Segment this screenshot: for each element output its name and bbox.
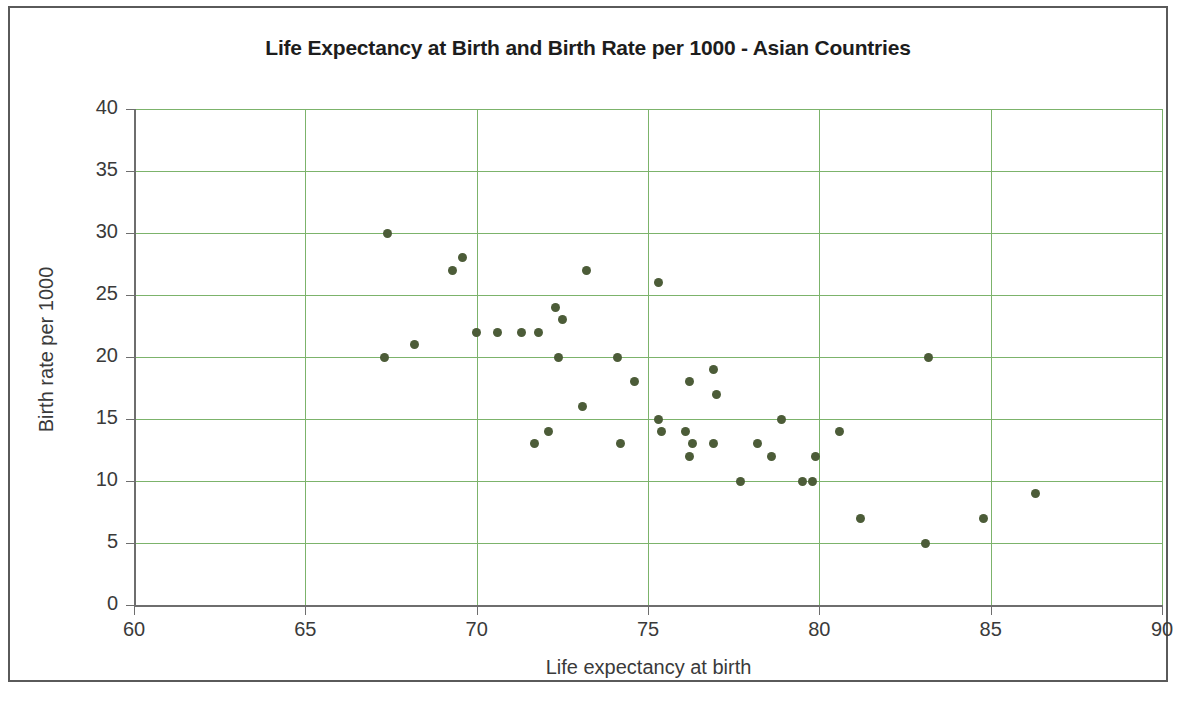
y-tick-label: 0	[56, 592, 118, 615]
x-tick	[1162, 606, 1163, 615]
scatter-point	[856, 514, 865, 523]
scatter-point	[924, 353, 933, 362]
scatter-point	[709, 365, 718, 374]
gridline-vertical	[819, 109, 820, 605]
x-tick-label: 60	[99, 618, 169, 641]
scatter-point	[681, 427, 690, 436]
scatter-point	[410, 340, 419, 349]
scatter-point	[688, 439, 697, 448]
scatter-point	[654, 278, 663, 287]
gridline-vertical	[648, 109, 649, 605]
scatter-point	[685, 452, 694, 461]
scatter-point	[630, 377, 639, 386]
y-axis-label: Birth rate per 1000	[35, 200, 58, 500]
y-tick-label: 5	[56, 530, 118, 553]
gridline-vertical	[477, 109, 478, 605]
scatter-point	[578, 402, 587, 411]
x-tick	[991, 606, 992, 615]
chart-figure: Life Expectancy at Birth and Birth Rate …	[8, 6, 1168, 682]
scatter-point	[767, 452, 776, 461]
scatter-point	[534, 328, 543, 337]
scatter-point	[554, 353, 563, 362]
scatter-point	[921, 539, 930, 548]
chart-title: Life Expectancy at Birth and Birth Rate …	[10, 36, 1166, 60]
x-tick	[305, 606, 306, 615]
scatter-point	[808, 477, 817, 486]
scatter-point	[736, 477, 745, 486]
y-tick-label: 40	[56, 96, 118, 119]
x-tick-label: 75	[613, 618, 683, 641]
x-tick	[819, 606, 820, 615]
gridline-vertical	[305, 109, 306, 605]
x-tick-label: 85	[956, 618, 1026, 641]
scatter-point	[798, 477, 807, 486]
scatter-point	[558, 315, 567, 324]
scatter-point	[551, 303, 560, 312]
scatter-point	[835, 427, 844, 436]
scatter-point	[380, 353, 389, 362]
scatter-point	[712, 390, 721, 399]
y-tick-label: 35	[56, 158, 118, 181]
page-bottom-margin	[0, 694, 1182, 706]
scatter-point	[458, 253, 467, 262]
scatter-point	[613, 353, 622, 362]
y-tick-label: 30	[56, 220, 118, 243]
x-tick-label: 90	[1127, 618, 1182, 641]
x-tick-label: 65	[270, 618, 340, 641]
x-tick	[648, 606, 649, 615]
scatter-point	[544, 427, 553, 436]
y-tick-label: 15	[56, 406, 118, 429]
scatter-point	[657, 427, 666, 436]
scatter-point	[472, 328, 481, 337]
gridline-vertical	[991, 109, 992, 605]
scatter-point	[709, 439, 718, 448]
scatter-point	[654, 415, 663, 424]
x-tick	[477, 606, 478, 615]
y-tick-label: 10	[56, 468, 118, 491]
scatter-point	[616, 439, 625, 448]
x-tick-label: 70	[442, 618, 512, 641]
plot-right-edge	[1162, 109, 1163, 605]
y-tick-label: 20	[56, 344, 118, 367]
x-axis-line	[134, 605, 1163, 607]
x-tick-label: 80	[784, 618, 854, 641]
scatter-point	[685, 377, 694, 386]
scatter-point	[530, 439, 539, 448]
scatter-point	[517, 328, 526, 337]
y-tick-label: 25	[56, 282, 118, 305]
scatter-point	[448, 266, 457, 275]
scatter-point	[1031, 489, 1040, 498]
scatter-point	[979, 514, 988, 523]
plot-area	[134, 109, 1162, 605]
y-axis-line	[134, 109, 136, 606]
scatter-point	[383, 229, 392, 238]
scatter-point	[777, 415, 786, 424]
scatter-point	[753, 439, 762, 448]
scatter-point	[493, 328, 502, 337]
x-axis-label: Life expectancy at birth	[134, 656, 1163, 679]
scatter-point	[582, 266, 591, 275]
x-tick	[134, 606, 135, 615]
